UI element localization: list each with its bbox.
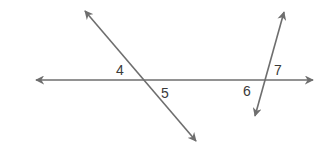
angle-label-6: 6 — [243, 83, 251, 99]
left-transversal — [85, 11, 196, 141]
angle-label-5: 5 — [161, 85, 169, 101]
angle-label-4: 4 — [116, 62, 124, 78]
angle-label-7: 7 — [274, 62, 282, 78]
angle-diagram: 4 5 6 7 — [0, 0, 328, 151]
